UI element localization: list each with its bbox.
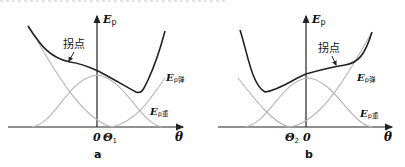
gravity-pe-label: Ep重 bbox=[359, 108, 379, 120]
x-axis-label: θ bbox=[175, 130, 183, 144]
origin-label: 0 bbox=[303, 131, 311, 144]
x-axis-label: θ bbox=[384, 130, 392, 144]
caption-a: a bbox=[94, 148, 101, 161]
elastic-pe-label: Ep弹 bbox=[165, 72, 185, 84]
elastic-pe-curve bbox=[238, 32, 372, 127]
gravity-pe-label: Ep重 bbox=[149, 106, 169, 118]
panel-a: 拐点 Ep Ep弹 Ep重 0 Θ1 θ a bbox=[8, 13, 185, 161]
inflection-arrow bbox=[332, 56, 336, 65]
elastic-pe-label: Ep弹 bbox=[356, 72, 376, 84]
y-axis-label: Ep bbox=[311, 13, 325, 27]
panel-b: 拐点 Ep Ep弹 Ep重 Θ2 0 θ b bbox=[218, 13, 392, 161]
inflection-arrow bbox=[69, 52, 74, 61]
inflection-label: 拐点 bbox=[318, 41, 340, 55]
y-axis-label: Ep bbox=[102, 13, 116, 27]
caption-b: b bbox=[305, 148, 313, 161]
origin-label: 0 bbox=[93, 131, 101, 144]
theta2-label: Θ2 bbox=[285, 131, 299, 145]
inflection-label: 拐点 bbox=[63, 37, 85, 51]
diagram-canvas: 拐点 Ep Ep弹 Ep重 0 Θ1 θ a 拐点 bbox=[0, 0, 405, 167]
theta1-label: Θ1 bbox=[103, 131, 117, 145]
